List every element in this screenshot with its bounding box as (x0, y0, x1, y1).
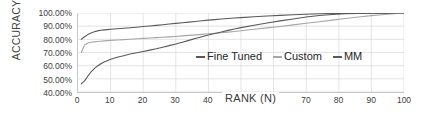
y-axis-tick-labels: 100.00%90.00%80.00%70.00%60.00%50.00%40.… (24, 13, 72, 93)
legend-label: MM (344, 51, 362, 62)
legend-item-fine-tuned[interactable]: Fine Tuned (196, 51, 262, 62)
x-tick-label: 80 (334, 95, 343, 105)
series-line-mm (81, 13, 404, 84)
y-tick-label: 80.00% (43, 35, 72, 44)
series-lines (81, 13, 404, 84)
x-tick-label: 0 (75, 95, 80, 105)
series-line-custom (81, 13, 404, 53)
chart-legend: Fine TunedCustomMM (196, 51, 362, 62)
x-tick-label: 10 (105, 95, 114, 105)
x-tick-label: 70 (301, 95, 310, 105)
x-tick-label: 40 (203, 95, 212, 105)
x-axis-title: RANK (N) (222, 92, 279, 104)
legend-line-icon (333, 56, 342, 58)
x-tick-label: 30 (170, 95, 179, 105)
y-tick-label: 100.00% (38, 9, 72, 18)
x-tick-label: 20 (138, 95, 147, 105)
legend-item-mm[interactable]: MM (333, 51, 362, 62)
legend-line-icon (273, 56, 282, 58)
legend-line-icon (196, 56, 205, 58)
y-tick-label: 50.00% (43, 75, 72, 84)
accuracy-vs-rank-chart: ACCURACY 100.00%90.00%80.00%70.00%60.00%… (0, 0, 429, 122)
y-tick-label: 70.00% (43, 49, 72, 58)
legend-item-custom[interactable]: Custom (273, 51, 322, 62)
legend-label: Custom (284, 51, 322, 62)
y-tick-label: 90.00% (43, 22, 72, 31)
legend-label: Fine Tuned (207, 51, 262, 62)
x-tick-label: 100 (397, 95, 411, 105)
y-tick-label: 40.00% (43, 89, 72, 98)
x-tick-label: 90 (367, 95, 376, 105)
y-axis-title: ACCURACY (10, 0, 22, 70)
y-tick-label: 60.00% (43, 62, 72, 71)
